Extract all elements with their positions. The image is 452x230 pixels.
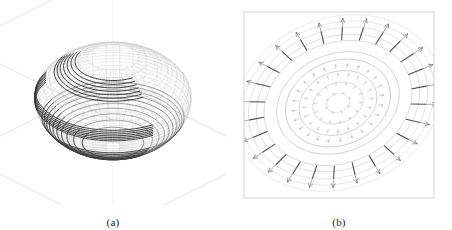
figure-root: (a) (b) — [0, 0, 452, 230]
panel-b-caption: (b) — [226, 216, 452, 228]
panel-a-canvas — [0, 0, 226, 205]
contour-bands — [35, 52, 184, 160]
panel-b-canvas — [226, 0, 452, 205]
panel-a-caption: (a) — [0, 216, 226, 228]
inner-vector-field — [292, 64, 384, 142]
panel-b-frame — [244, 12, 434, 198]
outer-vector-arrows — [239, 18, 438, 187]
contour-rings — [235, 15, 442, 192]
axonometric-box — [0, 0, 226, 205]
panel-b: (b) — [226, 0, 452, 230]
panel-a: (a) — [0, 0, 226, 230]
